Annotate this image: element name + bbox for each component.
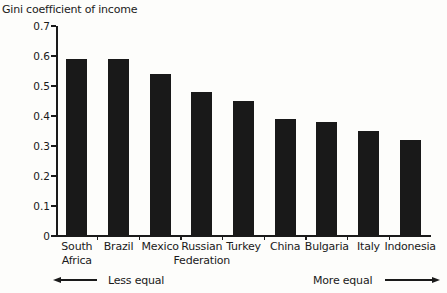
bar-italy (358, 131, 379, 236)
chart-title: Gini coefficient of income (2, 3, 137, 16)
left-arrow-shaft (61, 279, 97, 281)
x-tick-mark (264, 236, 266, 240)
y-tick-label: 0.7 (22, 19, 50, 33)
bar-russian-federation (191, 92, 212, 236)
bar-bulgaria (316, 122, 337, 236)
gini-bar-chart-figure: Gini coefficient of income 00.10.20.30.4… (0, 0, 447, 293)
bar-indonesia (400, 140, 421, 236)
x-tick-mark (389, 236, 391, 240)
less-equal-label: Less equal (108, 274, 164, 287)
right-arrow-icon (432, 277, 440, 283)
bar-china (275, 119, 296, 236)
y-tick-mark (51, 55, 56, 57)
y-axis-line (56, 26, 58, 236)
more-equal-annotation: More equal (313, 272, 440, 288)
y-tick-mark (51, 235, 56, 237)
bar-south-africa (66, 59, 87, 236)
x-label-italy: Italy (357, 240, 380, 254)
y-tick-label: 0 (22, 229, 50, 243)
bar-brazil (108, 59, 129, 236)
y-tick-mark (51, 85, 56, 87)
bar-mexico (150, 74, 171, 236)
x-tick-mark (347, 236, 349, 240)
right-arrow-shaft (385, 279, 432, 281)
x-tick-mark (222, 236, 224, 240)
y-tick-mark (51, 25, 56, 27)
x-tick-mark (97, 236, 99, 240)
less-equal-annotation: Less equal (53, 272, 164, 288)
x-label-turkey: Turkey (226, 240, 261, 254)
y-tick-label: 0.2 (22, 169, 50, 183)
x-label-bulgaria: Bulgaria (305, 240, 349, 254)
y-tick-mark (51, 145, 56, 147)
x-label-brazil: Brazil (104, 240, 134, 254)
x-label-indonesia: Indonesia (384, 240, 435, 254)
x-label-south-africa: South Africa (61, 240, 92, 267)
y-tick-label: 0.3 (22, 139, 50, 153)
y-tick-mark (51, 175, 56, 177)
y-tick-mark (51, 115, 56, 117)
y-tick-label: 0.4 (22, 109, 50, 123)
x-tick-mark (305, 236, 307, 240)
x-label-russian-federation: Russian Federation (174, 240, 231, 267)
left-arrow-icon (53, 277, 61, 283)
x-tick-mark (180, 236, 182, 240)
y-tick-label: 0.1 (22, 199, 50, 213)
bar-turkey (233, 101, 254, 236)
x-tick-mark (139, 236, 141, 240)
y-tick-mark (51, 205, 56, 207)
y-tick-label: 0.6 (22, 49, 50, 63)
y-tick-label: 0.5 (22, 79, 50, 93)
x-label-china: China (270, 240, 300, 254)
more-equal-label: More equal (313, 274, 372, 287)
